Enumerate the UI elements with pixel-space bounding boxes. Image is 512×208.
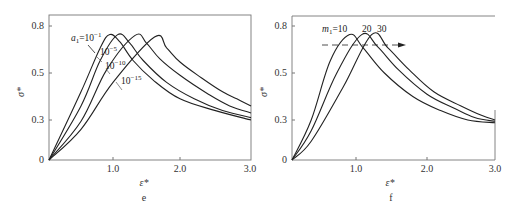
xtick-label: 2.0 (174, 163, 187, 174)
ytick-label: 0.8 (32, 20, 45, 31)
xtick-label: 3.0 (489, 163, 502, 174)
xtick-label: 1.0 (107, 163, 120, 174)
y-axis-label: σ* (258, 87, 269, 97)
series-label-m1-10: m1=10 (322, 24, 347, 36)
series-curve (292, 33, 495, 160)
ytick-label: 0.8 (275, 20, 288, 31)
x-axis-label: ε* (386, 177, 395, 188)
panel-f: 0.8 0.5 0.3 0 1.0 2.0 3.0 ε* σ* f m1=10 … (258, 16, 501, 203)
series-curve (49, 35, 251, 160)
series-label-1e-15: 10−15 (121, 74, 142, 86)
series-label-m1-30: 30 (377, 24, 387, 34)
pointer-arrow (88, 45, 95, 53)
plot-frame-f (292, 16, 495, 160)
panel-e: 0.8 0.5 0.3 0 1.0 2.0 3.0 ε* σ* e a1=10−… (15, 15, 256, 203)
xtick-label: 2.0 (421, 163, 434, 174)
x-axis-label: ε* (140, 177, 149, 188)
ytick-label: 0.5 (32, 67, 45, 78)
series-curve (49, 34, 251, 160)
ytick-label: 0.3 (275, 114, 288, 125)
arrow-head-icon (398, 43, 406, 48)
series-curve (49, 34, 251, 160)
ytick-label: 0.5 (275, 67, 288, 78)
series-label-m1-20: 20 (362, 24, 372, 34)
ytick-label: 0 (39, 154, 44, 165)
series-curve (49, 34, 251, 160)
xtick-label: 3.0 (244, 163, 257, 174)
figure: 0.8 0.5 0.3 0 1.0 2.0 3.0 ε* σ* e a1=10−… (0, 0, 512, 208)
ytick-label: 0.3 (32, 114, 45, 125)
panel-caption: f (389, 192, 393, 203)
y-axis-label: σ* (15, 87, 26, 97)
ytick-label: 0 (282, 154, 287, 165)
panel-caption: e (142, 192, 147, 203)
curves-f (292, 33, 495, 160)
series-label-1e-10: 10−10 (105, 59, 126, 71)
series-label-1e-5: 10−5 (100, 45, 117, 57)
curves-e (49, 34, 251, 160)
series-label-a1: a1=10−1 (71, 31, 102, 45)
series-curve (292, 33, 495, 160)
xtick-label: 1.0 (350, 163, 363, 174)
